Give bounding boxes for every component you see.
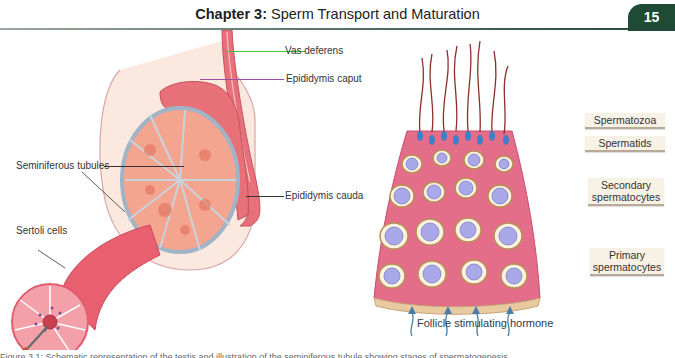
page-number: 15 (628, 4, 675, 31)
epididymis-cauda-leader (246, 196, 284, 197)
running-header-title: Chapter 3: Sperm Transport and Maturatio… (0, 6, 675, 22)
label-epididymis-caput: Epididymis caput (286, 73, 362, 84)
seminiferous-epithelium-illustration (362, 36, 552, 336)
label-vas-deferens: Vas deferens (285, 45, 343, 56)
stage-box-spermatids: Spermatids (585, 136, 665, 152)
epididymis-caput-leader (200, 79, 284, 80)
stage-box-primary-spermatocytes: Primary spermatocytes (590, 248, 664, 276)
chapter-title: Sperm Transport and Maturation (271, 6, 480, 22)
stage-label-primary-spermatocytes: Primary spermatocytes (590, 249, 664, 273)
diagonal-leaders (0, 160, 200, 280)
stage-box-secondary-spermatocytes: Secondary spermatocytes (588, 178, 664, 206)
stage-label-spermatozoa: Spermatozoa (594, 114, 656, 126)
chapter-label: Chapter 3: (195, 6, 267, 22)
stage-label-secondary-spermatocytes: Secondary spermatocytes (588, 179, 664, 203)
stage-label-spermatids: Spermatids (598, 137, 651, 149)
figure-caption: Figure 3.1: Schematic representation of … (0, 350, 675, 358)
stage-box-spermatozoa: Spermatozoa (585, 113, 665, 129)
page-header: Chapter 3: Sperm Transport and Maturatio… (0, 0, 675, 32)
label-epididymis-cauda: Epididymis cauda (285, 190, 363, 201)
label-follicle-stimulating-hormone: Follicle stimulating hormone (417, 317, 553, 329)
